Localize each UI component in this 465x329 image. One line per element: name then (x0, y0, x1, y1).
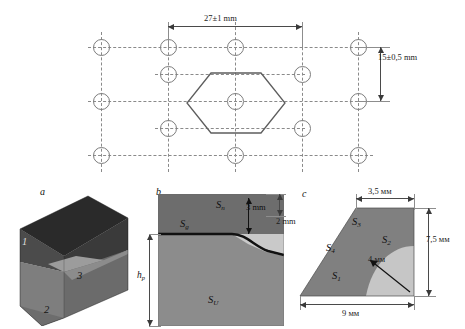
panel-b-label-sn: Sn (216, 199, 225, 212)
extension-line (414, 296, 415, 310)
dimension-line-right (428, 208, 429, 296)
hole (160, 66, 177, 83)
panel-b-label-hp-sub: p (142, 274, 145, 281)
technical-figure: 27±1 mm 15±0,5 mm a (0, 0, 465, 329)
panel-a-block-3d (12, 194, 134, 326)
hole (294, 120, 311, 137)
extension-line (358, 101, 390, 102)
panel-b-label-sg-sub: g (185, 223, 189, 231)
panel-c-letter: c (302, 188, 306, 199)
panel-c-section (298, 202, 434, 310)
hole (93, 93, 110, 110)
centerline-vertical (302, 32, 303, 172)
dimension-line-horizontal (168, 26, 302, 27)
hole (93, 147, 110, 164)
panel-b-label-sn-sub: n (221, 204, 225, 212)
hole (294, 66, 311, 83)
hexagon-outline (186, 72, 286, 134)
arrow-left-icon (300, 302, 306, 308)
panel-b-section (158, 194, 284, 326)
dimension-label-right: 7,5 мм (426, 234, 450, 244)
panel-a: a 1 3 2 (12, 186, 134, 326)
arrow-right-icon (408, 196, 414, 202)
dimension-label-vertical: 15±0,5 mm (378, 52, 417, 62)
arrow-down-icon (246, 228, 252, 234)
dimension-line-top (356, 198, 414, 199)
panel-a-label-1: 1 (22, 236, 27, 247)
panel-c-label-s4-sub: 4 (331, 247, 335, 255)
panel-b-label-sg: Sg (180, 218, 189, 231)
dimension-label-bottom: 9 мм (342, 308, 359, 318)
panel-b-label-hp: hp (137, 270, 145, 281)
dimension-label-horizontal: 27±1 mm (204, 13, 237, 23)
panel-c-label-s3: S3 (352, 216, 361, 229)
arrow-right-icon (296, 24, 302, 30)
hole (227, 39, 244, 56)
panel-c: c S3 S2 S4 S1 4 мм (290, 186, 462, 326)
panel-c-label-s4: S4 (326, 242, 335, 255)
panel-c-label-s1-sub: 1 (337, 275, 341, 283)
panel-c-label-s2-sub: 2 (387, 239, 391, 247)
dimension-label-radius: 4 мм (368, 254, 385, 264)
top-panel-hole-pattern: 27±1 mm 15±0,5 mm (0, 0, 465, 180)
extension-line (358, 47, 390, 48)
extension-line (414, 296, 436, 297)
panel-b-label-su-sub: U (213, 299, 218, 307)
arrow-up-icon (277, 194, 283, 200)
dimension-label-top: 3,5 мм (368, 186, 392, 196)
extension-line (149, 234, 161, 235)
hole (160, 120, 177, 137)
panel-a-label-2: 2 (44, 304, 49, 315)
panel-b: b Sn Sg SU hp (140, 186, 290, 326)
arrow-left-icon (356, 196, 362, 202)
dimension-line-bottom (300, 304, 414, 305)
panel-b-label-su: SU (208, 294, 218, 307)
dimension-label-3mm: 3 mm (246, 202, 266, 212)
panel-a-label-3: 3 (77, 270, 82, 281)
panel-c-label-s2: S2 (382, 234, 391, 247)
hole (227, 147, 244, 164)
arrow-down-icon (378, 95, 384, 101)
hole (350, 147, 367, 164)
arrow-down-icon (426, 290, 432, 296)
panel-c-label-s3-sub: 3 (357, 221, 361, 229)
dimension-line-hp (149, 234, 150, 326)
arrow-left-icon (168, 24, 174, 30)
arrow-up-icon (426, 208, 432, 214)
extension-line (149, 326, 161, 327)
extension-line (302, 22, 303, 50)
panel-c-label-s1: S1 (332, 270, 341, 283)
arrow-right-icon (408, 302, 414, 308)
hole (93, 39, 110, 56)
